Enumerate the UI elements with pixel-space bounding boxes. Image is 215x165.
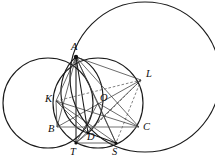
arc-lens-left [61, 57, 88, 133]
point-s [114, 141, 117, 144]
label-s: S [112, 146, 118, 157]
seg-K-C [56, 101, 139, 127]
label-a: A [70, 41, 78, 52]
seg-K-S [56, 101, 116, 143]
geometry-figure: ALKOBCDTS [0, 0, 215, 165]
label-d: D [86, 131, 95, 142]
label-t: T [70, 146, 77, 157]
seg-K-B [56, 101, 57, 127]
label-b: B [48, 123, 55, 134]
seg-L-S [116, 80, 141, 143]
label-o: O [100, 92, 108, 103]
label-l: L [145, 68, 152, 79]
label-c: C [143, 121, 151, 132]
point-t [74, 141, 77, 144]
label-k: K [44, 93, 53, 104]
seg-O-C [98, 103, 139, 127]
circles-group [3, 2, 215, 152]
geometry-canvas: ALKOBCDTS [0, 0, 215, 165]
point-a [74, 55, 78, 59]
